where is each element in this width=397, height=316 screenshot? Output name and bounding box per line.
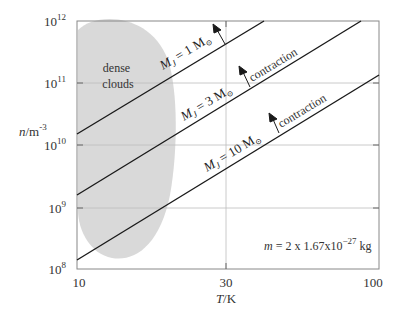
x-tick-labels: 10 30 100: [73, 275, 383, 290]
label-mj-10: MJ = 10 M⊙: [200, 129, 264, 177]
y-axis-title: n/m-3: [19, 122, 47, 139]
contraction-label-1: contraction: [246, 45, 299, 85]
dense-clouds-region: [78, 19, 176, 259]
svg-text:1012: 1012: [44, 12, 66, 29]
svg-text:108: 108: [49, 260, 67, 277]
x-axis-title: T/K: [216, 291, 237, 306]
chart: contraction contraction MJ = 1 M⊙ MJ = 3…: [0, 0, 397, 316]
svg-text:1010: 1010: [44, 136, 67, 153]
mass-note: m = 2 x 1.67x10−27 kg: [264, 236, 372, 253]
svg-text:109: 109: [49, 199, 67, 216]
svg-text:MJ = 10 M⊙: MJ = 10 M⊙: [200, 129, 264, 177]
svg-text:100: 100: [363, 275, 383, 290]
svg-text:30: 30: [220, 275, 233, 290]
contraction-arrows: [213, 24, 279, 133]
y-tick-labels: 1012 1011 1010 109 108: [44, 12, 67, 277]
svg-text:10: 10: [73, 275, 86, 290]
svg-text:1011: 1011: [44, 74, 66, 91]
